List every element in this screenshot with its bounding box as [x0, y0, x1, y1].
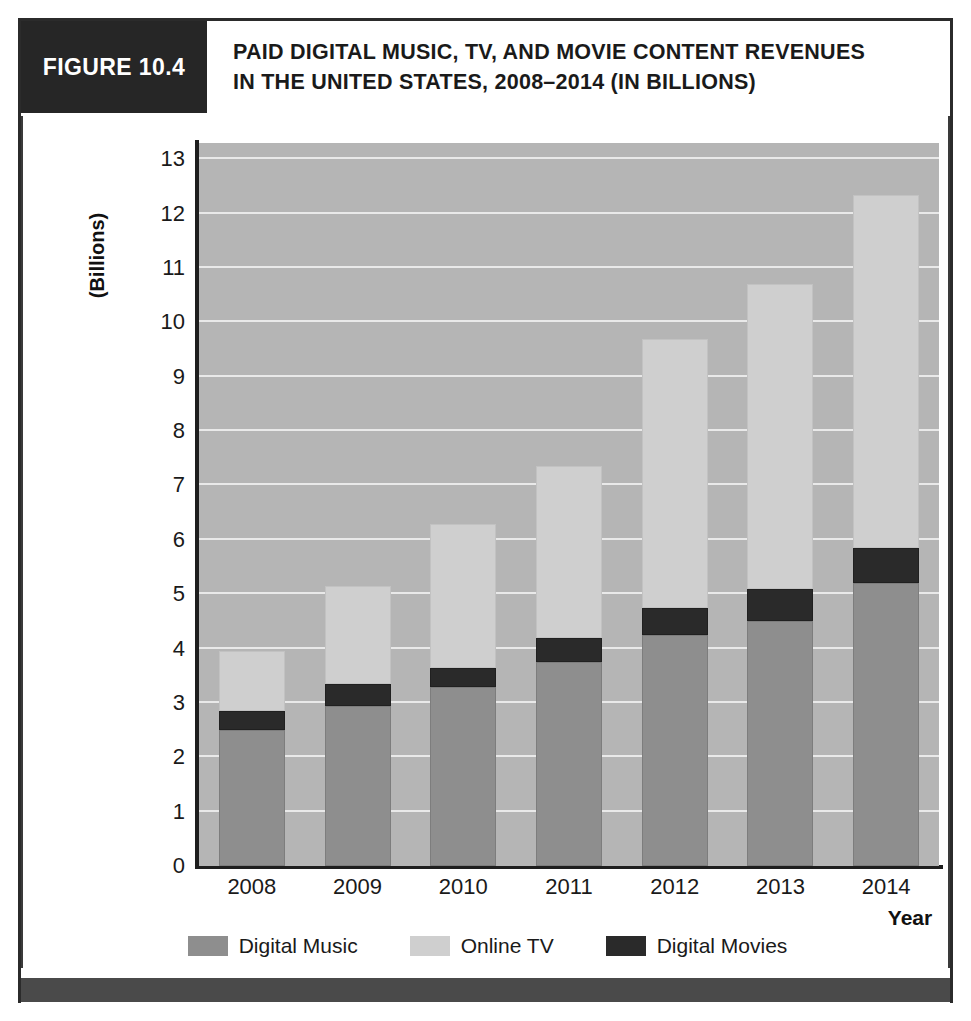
y-axis-tick-label: 11	[125, 255, 185, 281]
bar-segment-digital-music[interactable]	[536, 662, 602, 866]
legend-item-digital-movies[interactable]: Digital Movies	[606, 934, 788, 958]
figure-title-line-2: IN THE UNITED STATES, 2008–2014 (IN BILL…	[233, 67, 940, 97]
y-axis-tick-label: 12	[125, 201, 185, 227]
bar-segment-online-tv[interactable]	[219, 651, 285, 711]
legend-swatch-icon	[606, 936, 646, 956]
x-axis-tick-label-2013: 2013	[720, 874, 840, 900]
bar-segment-online-tv[interactable]	[747, 284, 813, 588]
bar-segment-digital-movies[interactable]	[536, 638, 602, 662]
page-frame-right-rule	[950, 18, 953, 1003]
x-axis-tick-label-2008: 2008	[192, 874, 312, 900]
legend-swatch-icon	[188, 936, 228, 956]
x-axis-title: Year	[855, 906, 965, 930]
bar-segment-digital-music[interactable]	[219, 730, 285, 866]
figure-title: PAID DIGITAL MUSIC, TV, AND MOVIE CONTEN…	[207, 21, 950, 113]
bar-segment-digital-music[interactable]	[642, 635, 708, 866]
y-axis-tick-label: 1	[125, 799, 185, 825]
y-axis-tick-label: 2	[125, 744, 185, 770]
chart-legend: Digital MusicOnline TVDigital Movies	[23, 934, 952, 958]
x-axis-tick-label-2010: 2010	[403, 874, 523, 900]
y-axis-tick-label: 0	[125, 853, 185, 879]
y-axis-tick-label: 5	[125, 581, 185, 607]
x-axis-tick-labels: 2008200920102011201220132014	[199, 874, 939, 908]
bar-group-2013[interactable]	[747, 143, 813, 866]
bar-group-2012[interactable]	[642, 143, 708, 866]
bar-segment-digital-movies[interactable]	[747, 589, 813, 622]
bar-segment-online-tv[interactable]	[430, 524, 496, 668]
legend-item-digital-music[interactable]: Digital Music	[188, 934, 358, 958]
y-axis-tick-label: 13	[125, 146, 185, 172]
y-axis-tick-label: 3	[125, 690, 185, 716]
figure-footer-bar	[21, 978, 950, 1002]
bar-group-2011[interactable]	[536, 143, 602, 866]
y-axis-tick-label: 7	[125, 472, 185, 498]
bar-segment-digital-movies[interactable]	[853, 548, 919, 583]
x-axis-tick-label-2012: 2012	[615, 874, 735, 900]
legend-label: Digital Music	[239, 934, 358, 958]
x-axis-tick-label-2014: 2014	[826, 874, 946, 900]
bar-group-2014[interactable]	[853, 143, 919, 866]
figure-header: FIGURE 10.4 PAID DIGITAL MUSIC, TV, AND …	[21, 21, 950, 113]
bar-segment-digital-music[interactable]	[325, 706, 391, 866]
bar-segment-online-tv[interactable]	[536, 466, 602, 637]
plot-area	[199, 143, 939, 866]
legend-label: Online TV	[461, 934, 554, 958]
y-axis-tick-label: 10	[125, 309, 185, 335]
y-axis-tick-label: 6	[125, 527, 185, 553]
bar-segment-digital-movies[interactable]	[642, 608, 708, 635]
y-axis-tick-labels: 012345678910111213	[119, 143, 185, 866]
bar-segment-digital-movies[interactable]	[219, 711, 285, 730]
bar-group-2010[interactable]	[430, 143, 496, 866]
x-axis-tick-label-2011: 2011	[509, 874, 629, 900]
bar-segment-online-tv[interactable]	[642, 339, 708, 608]
bar-segment-digital-music[interactable]	[430, 687, 496, 866]
figure-number-label: FIGURE 10.4	[21, 21, 207, 113]
y-axis-tick-label: 4	[125, 636, 185, 662]
bar-group-2009[interactable]	[325, 143, 391, 866]
bar-segment-online-tv[interactable]	[853, 195, 919, 548]
bar-segment-digital-movies[interactable]	[325, 684, 391, 706]
bar-segment-digital-movies[interactable]	[430, 668, 496, 687]
legend-label: Digital Movies	[657, 934, 788, 958]
bar-segment-digital-music[interactable]	[747, 621, 813, 866]
chart-card: (Billions) 012345678910111213 2008200920…	[21, 116, 950, 968]
y-axis-title: (Billions)	[86, 166, 109, 346]
y-axis-tick-label: 9	[125, 364, 185, 390]
legend-item-online-tv[interactable]: Online TV	[410, 934, 554, 958]
bar-segment-digital-music[interactable]	[853, 583, 919, 866]
figure-title-line-1: PAID DIGITAL MUSIC, TV, AND MOVIE CONTEN…	[233, 37, 940, 67]
figure-page: FIGURE 10.4 PAID DIGITAL MUSIC, TV, AND …	[0, 0, 971, 1021]
x-axis-tick-label-2009: 2009	[298, 874, 418, 900]
y-axis-tick-label: 8	[125, 418, 185, 444]
bar-group-2008[interactable]	[219, 143, 285, 866]
legend-swatch-icon	[410, 936, 450, 956]
bar-segment-online-tv[interactable]	[325, 586, 391, 684]
